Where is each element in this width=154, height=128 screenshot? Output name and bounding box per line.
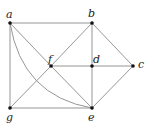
vertex-c [131,64,135,68]
edge-c-e [92,66,133,108]
edge-f-e [51,66,92,108]
graph-edges-layer [0,0,154,128]
vertex-label-c: c [138,59,144,70]
vertex-label-d: d [93,54,100,65]
vertex-g [8,106,12,110]
vertex-label-a: a [6,9,13,20]
graph-diagram: abcdefg [0,0,154,128]
vertex-b [90,21,94,25]
vertex-a [8,21,12,25]
edge-a-f [10,23,51,66]
vertex-e [90,106,94,110]
vertex-label-b: b [88,8,95,19]
edge-b-f [51,23,92,66]
vertex-label-e: e [88,112,95,123]
vertex-label-f: f [48,54,52,65]
edge-f-g [10,66,51,108]
vertex-label-g: g [6,112,13,123]
